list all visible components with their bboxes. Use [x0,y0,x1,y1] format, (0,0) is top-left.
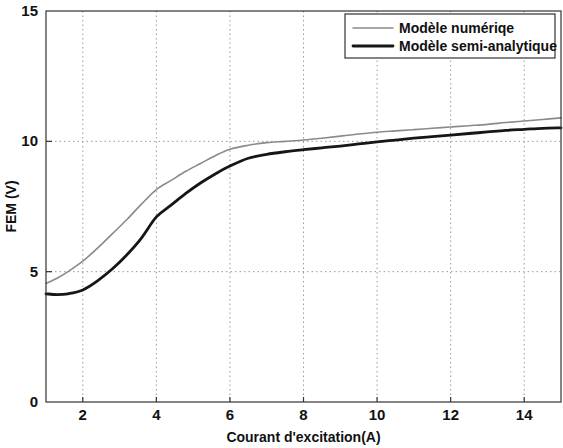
y-axis-title: FEM (V) [3,180,19,232]
y-tick-label: 0 [30,393,38,410]
x-axis-title: Courant d'excitation(A) [226,429,380,445]
y-tick-label: 15 [21,2,38,19]
x-tick-label: 14 [516,406,533,423]
legend-label: Modèle semi-analytique [399,38,557,54]
x-tick-label: 8 [299,406,307,423]
x-tick-label: 10 [369,406,386,423]
chart-figure: 2468101214051015Courant d'excitation(A)F… [0,0,563,448]
y-tick-label: 10 [21,132,38,149]
y-tick-label: 5 [30,263,38,280]
x-tick-label: 4 [152,406,161,423]
chart-canvas: 2468101214051015Courant d'excitation(A)F… [0,0,563,448]
legend: Modèle numériqeModèle semi-analytique [345,14,557,58]
legend-label: Modèle numériqe [399,20,514,36]
x-tick-label: 6 [226,406,234,423]
x-tick-label: 12 [442,406,459,423]
x-tick-label: 2 [79,406,87,423]
